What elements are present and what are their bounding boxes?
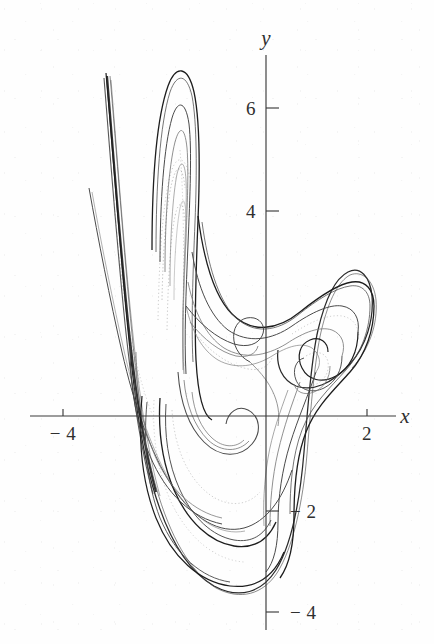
attractor-lower-band-2b <box>146 402 230 582</box>
attractor-outer-envelope-2 <box>110 76 376 595</box>
attractor-middle-spike-inner-4 <box>174 201 186 366</box>
attractor-outer-envelope <box>106 73 372 593</box>
attractor-lower-band-1b <box>166 404 271 541</box>
y-axis-label: y <box>259 26 271 50</box>
y-tick-label-minus4: − 4 <box>290 602 316 623</box>
attractor-figure: − 4 2 6 4 − 2 − 4 x y <box>0 0 434 644</box>
attractor-left-spike-bundle <box>104 76 160 496</box>
attractor-middle-spike-inner-3 <box>170 164 186 370</box>
axes-group: − 4 2 6 4 − 2 − 4 x y <box>30 26 410 630</box>
x-axis-label: x <box>399 404 410 428</box>
y-tick-label-6: 6 <box>246 98 256 119</box>
y-tick-label-minus2: − 2 <box>290 501 316 522</box>
attractor-upper-fold-outer-2 <box>202 222 370 329</box>
attractor-lower-band-1 <box>160 398 276 547</box>
attractor-curve-group <box>89 71 376 595</box>
attractor-lower-cusp-2 <box>184 380 249 450</box>
attractor-plot-canvas: − 4 2 6 4 − 2 − 4 x y <box>0 0 434 644</box>
attractor-middle-spike-outer-2 <box>156 78 196 362</box>
x-tick-label-2: 2 <box>362 423 372 444</box>
attractor-lower-band-2 <box>141 396 284 586</box>
attractor-right-descend-3 <box>264 390 288 526</box>
x-tick-label-minus4: − 4 <box>50 423 76 444</box>
attractor-lower-cusp-1 <box>178 372 258 454</box>
y-tick-label-4: 4 <box>246 201 256 222</box>
